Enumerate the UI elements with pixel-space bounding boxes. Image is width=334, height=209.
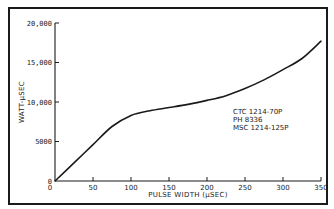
annotation-line-2: PH 8336 <box>233 116 289 124</box>
x-tick-label: 350 <box>314 184 327 192</box>
annotation-line-3: MSC 1214-125P <box>233 124 289 132</box>
x-tick-label: 0 <box>48 184 52 192</box>
y-tick-label: 15,000 <box>27 59 52 67</box>
x-axis-ticks: 050100150200250300350 <box>48 177 328 192</box>
x-tick-label: 300 <box>276 184 289 192</box>
x-tick-label: 100 <box>124 184 137 192</box>
chart-plot: 0500010,00015,00020,000 0501001502002503… <box>0 0 334 209</box>
y-axis-ticks: 0500010,00015,00020,000 <box>27 20 59 186</box>
chart-annotation: CTC 1214-70P PH 8336 MSC 1214-125P <box>233 108 289 133</box>
x-axis-title: PULSE WIDTH (µSEC) <box>148 191 228 199</box>
annotation-line-1: CTC 1214-70P <box>233 108 289 116</box>
x-tick-label: 50 <box>89 184 98 192</box>
y-tick-label: 10,000 <box>27 99 52 107</box>
chart-axes <box>55 23 321 181</box>
y-tick-label: 5000 <box>35 138 52 146</box>
y-axis-title: WATT-µSEC <box>18 81 26 123</box>
y-tick-label: 20,000 <box>27 20 52 28</box>
x-tick-label: 250 <box>238 184 251 192</box>
